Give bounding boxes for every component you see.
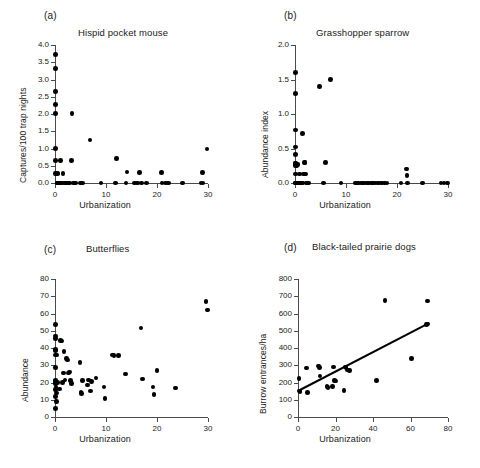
y-tick-label-c-1: 10 xyxy=(19,395,49,404)
data-point xyxy=(94,376,99,381)
y-tick-a-6 xyxy=(51,80,55,81)
y-tick-b-2 xyxy=(291,114,295,115)
data-point xyxy=(103,396,108,401)
y-tick-b-3 xyxy=(291,80,295,81)
y-tick-label-d-7: 700 xyxy=(262,291,292,300)
data-point xyxy=(53,365,58,370)
y-tick-d-8 xyxy=(294,279,298,280)
data-point xyxy=(53,146,58,151)
y-tick-label-a-4: 2.0 xyxy=(19,109,49,118)
data-point xyxy=(73,181,78,186)
y-tick-label-b-4: 2.0 xyxy=(259,40,289,49)
data-point xyxy=(55,380,60,385)
panel-c: (c)ButterfliesAbundanceUrbanization01020… xyxy=(0,234,240,468)
y-tick-label-c-8: 80 xyxy=(19,274,49,283)
y-tick-label-d-5: 500 xyxy=(262,326,292,335)
data-point xyxy=(383,298,388,303)
data-point xyxy=(54,391,59,396)
data-point xyxy=(88,138,93,143)
x-tick-c-3 xyxy=(208,418,209,422)
x-tick-c-0 xyxy=(55,418,56,422)
panel-label-c: (c) xyxy=(44,244,56,255)
data-point xyxy=(89,379,94,384)
y-tick-label-b-1: 0.5 xyxy=(259,144,289,153)
y-tick-label-d-3: 300 xyxy=(262,360,292,369)
data-point xyxy=(303,160,308,165)
x-tick-a-2 xyxy=(157,184,158,188)
data-point xyxy=(69,158,74,163)
data-point xyxy=(297,376,302,381)
data-point xyxy=(124,181,129,186)
y-tick-label-c-7: 70 xyxy=(19,291,49,300)
data-point xyxy=(79,391,84,396)
data-point xyxy=(53,66,58,71)
data-point xyxy=(116,353,121,358)
data-point xyxy=(173,386,178,391)
y-tick-label-a-3: 1.5 xyxy=(19,126,49,135)
data-point xyxy=(57,387,62,392)
y-tick-label-b-2: 1.0 xyxy=(259,109,289,118)
x-tick-label-c-3: 30 xyxy=(193,424,223,433)
data-point xyxy=(55,353,60,358)
data-point xyxy=(140,377,145,382)
y-tick-label-c-6: 60 xyxy=(19,309,49,318)
data-point xyxy=(58,158,63,163)
data-point xyxy=(62,349,67,354)
data-point xyxy=(159,170,164,175)
data-point xyxy=(123,372,128,377)
plot-area-b: 0.00.51.01.52.00102030 xyxy=(295,45,448,183)
x-tick-label-d-0: 0 xyxy=(283,424,313,433)
data-point xyxy=(293,152,298,157)
data-point xyxy=(305,390,310,395)
y-tick-label-b-0: 0.0 xyxy=(259,178,289,187)
data-point xyxy=(205,147,210,152)
x-axis-label-a: Urbanization xyxy=(79,200,131,210)
y-tick-c-5 xyxy=(51,331,55,332)
data-point xyxy=(331,365,336,370)
x-axis-label-d: Urbanization xyxy=(319,434,371,444)
data-point xyxy=(151,385,156,390)
panel-label-d: (d) xyxy=(284,242,297,253)
data-point xyxy=(405,181,410,186)
data-point xyxy=(53,322,58,327)
x-tick-label-c-1: 10 xyxy=(91,424,121,433)
data-point xyxy=(339,181,344,186)
y-tick-label-a-8: 4.0 xyxy=(19,40,49,49)
y-tick-a-3 xyxy=(51,131,55,132)
panel-a: (a)Hispid pocket mouseCaptures/100 trap … xyxy=(0,0,240,234)
data-point xyxy=(63,378,68,383)
data-point xyxy=(425,299,430,304)
data-point xyxy=(80,378,85,383)
data-point xyxy=(70,111,75,116)
x-tick-d-3 xyxy=(411,418,412,422)
x-tick-label-b-1: 10 xyxy=(331,190,361,199)
y-tick-d-2 xyxy=(294,383,298,384)
data-point xyxy=(333,379,338,384)
data-point xyxy=(347,368,352,373)
panel-title-c: Butterflies xyxy=(86,243,129,254)
x-tick-c-2 xyxy=(157,418,158,422)
x-tick-label-b-3: 30 xyxy=(433,190,463,199)
data-point xyxy=(144,181,149,186)
panel-d: (d)Black-tailed prairie dogsBurrow entra… xyxy=(240,234,480,468)
x-axis-label-c: Urbanization xyxy=(79,434,131,444)
y-tick-a-1 xyxy=(51,166,55,167)
x-axis-label-b: Urbanization xyxy=(319,200,371,210)
data-point xyxy=(409,356,414,361)
y-tick-d-7 xyxy=(294,296,298,297)
data-point xyxy=(53,111,58,116)
x-tick-label-c-0: 0 xyxy=(40,424,70,433)
plot-area-d: 0100200300400500600700800020406080 xyxy=(298,279,448,417)
data-point xyxy=(342,388,347,393)
data-point xyxy=(293,145,298,150)
data-point xyxy=(405,173,410,178)
data-point xyxy=(139,326,144,331)
data-point xyxy=(385,181,390,186)
y-tick-label-c-2: 20 xyxy=(19,378,49,387)
data-point xyxy=(53,158,58,163)
x-tick-a-1 xyxy=(106,184,107,188)
x-tick-b-2 xyxy=(397,184,398,188)
y-tick-label-c-3: 30 xyxy=(19,360,49,369)
x-tick-label-a-1: 10 xyxy=(91,190,121,199)
x-tick-a-3 xyxy=(208,184,209,188)
